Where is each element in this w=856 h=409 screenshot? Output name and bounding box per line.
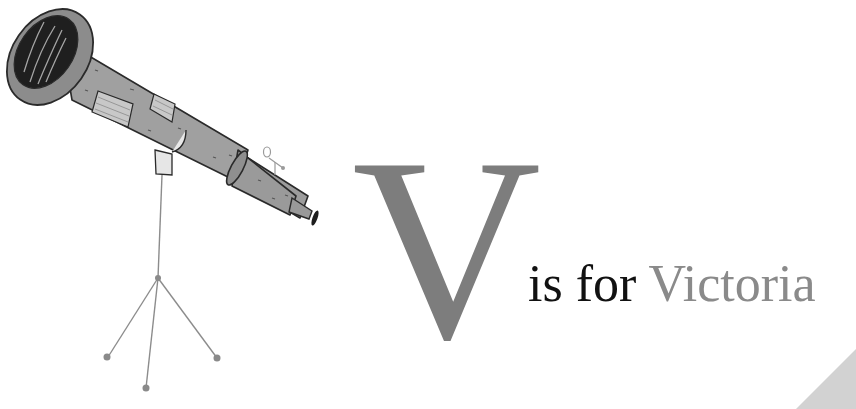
telescope-tube-icon <box>62 40 320 226</box>
tripod-icon <box>108 175 217 388</box>
page-corner-fold <box>796 349 856 409</box>
telescope-illustration <box>0 0 360 409</box>
initial-letter: V <box>352 118 541 380</box>
caption-lead: is for <box>528 255 636 312</box>
alphabet-page: V is for Victoria <box>0 0 856 409</box>
caption: is for Victoria <box>528 256 816 312</box>
caption-word: Victoria <box>648 255 815 312</box>
